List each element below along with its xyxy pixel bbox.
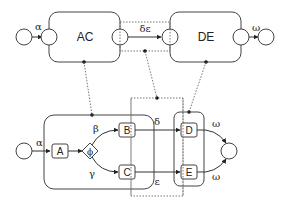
delta-label: δ bbox=[154, 116, 160, 127]
gamma-edge bbox=[92, 157, 118, 172]
top-alpha-label: α bbox=[35, 21, 42, 32]
ac-output-port bbox=[112, 29, 128, 45]
task-b-label: B bbox=[124, 125, 131, 136]
omega-bottom-label: ω bbox=[212, 171, 220, 182]
de-output-port bbox=[233, 29, 249, 45]
de-mapping-line bbox=[189, 62, 206, 112]
ac-input-port bbox=[41, 29, 57, 45]
top-end-event bbox=[258, 29, 274, 45]
bottom-end-event bbox=[221, 143, 237, 159]
epsilon-label: ε bbox=[154, 176, 159, 187]
omega-top-label: ω bbox=[212, 118, 220, 129]
connection-mapping-line bbox=[145, 51, 157, 98]
top-start-event bbox=[16, 29, 32, 45]
task-e-label: E bbox=[186, 167, 193, 178]
task-c-label: C bbox=[123, 167, 130, 178]
de-label: DE bbox=[198, 30, 215, 44]
top-delta-epsilon-label: δε bbox=[139, 23, 150, 34]
bottom-start-event bbox=[16, 143, 32, 159]
task-a-label: A bbox=[57, 146, 64, 157]
process-diagram: α AC DE δε ω α A ϕ β γ B bbox=[0, 0, 290, 206]
gateway-label: ϕ bbox=[87, 147, 93, 157]
gamma-label: γ bbox=[89, 168, 95, 179]
omega-top-edge bbox=[197, 130, 226, 143]
bottom-alpha-label: α bbox=[36, 137, 43, 148]
task-d-label: D bbox=[185, 125, 192, 136]
ac-mapping-line bbox=[84, 62, 92, 115]
de-input-port bbox=[162, 29, 178, 45]
top-omega-label: ω bbox=[252, 22, 260, 33]
beta-label: β bbox=[93, 123, 99, 134]
ac-label: AC bbox=[77, 30, 94, 44]
